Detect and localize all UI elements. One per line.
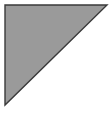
image-canvas [0, 0, 110, 115]
shape-canvas-svg [0, 0, 110, 115]
